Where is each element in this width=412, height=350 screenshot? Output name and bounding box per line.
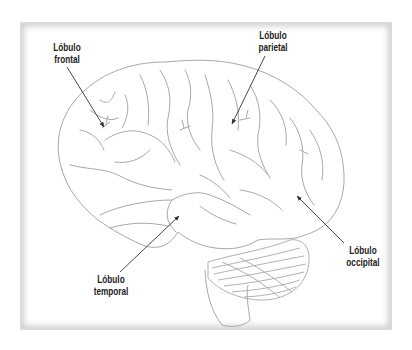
arrow-frontal-icon [67, 67, 104, 127]
label-occipital-line2: occipital [339, 257, 387, 269]
label-temporal-lobe: Lóbulo temporal [87, 274, 135, 298]
label-occipital-line1: Lóbulo [339, 245, 387, 257]
label-temporal-line1: Lóbulo [87, 274, 135, 286]
label-parietal-line1: Lóbulo [251, 30, 295, 42]
label-frontal-lobe: Lóbulo frontal [45, 42, 89, 66]
label-temporal-line2: temporal [87, 286, 135, 298]
label-occipital-lobe: Lóbulo occipital [339, 245, 387, 269]
label-parietal-line2: parietal [251, 42, 295, 54]
brain-outline-icon [58, 60, 344, 249]
label-parietal-lobe: Lóbulo parietal [251, 30, 295, 54]
label-frontal-line1: Lóbulo [45, 42, 89, 54]
arrow-occipital-icon [297, 196, 344, 243]
label-frontal-line2: frontal [45, 54, 89, 66]
